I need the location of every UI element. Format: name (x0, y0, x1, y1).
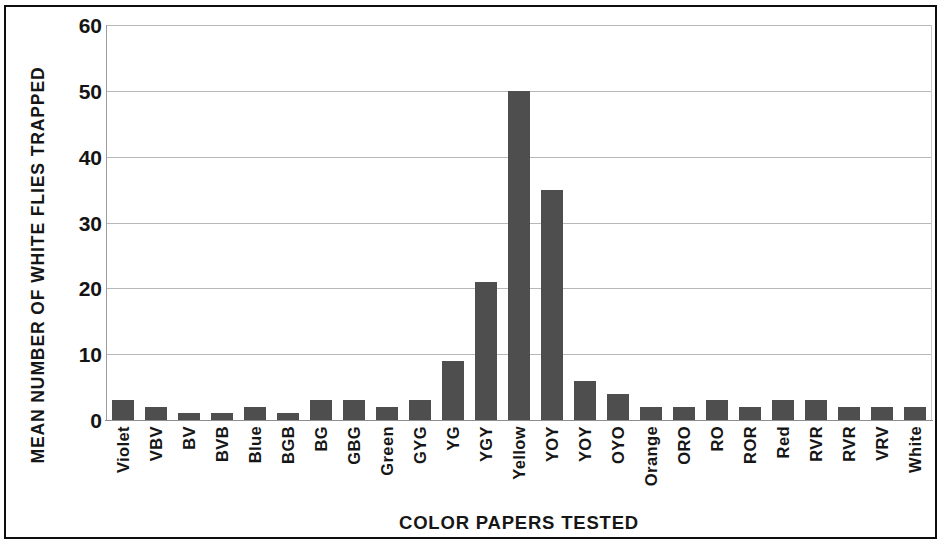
x-axis-tick-label-slot: YG (436, 420, 469, 515)
bar-slot (238, 25, 271, 420)
bar[interactable] (145, 407, 167, 420)
bar-slot (403, 25, 436, 420)
x-axis-tick-label: YOY (577, 426, 594, 462)
x-axis-tick-label-slot: ROR (734, 420, 767, 515)
x-axis-tick-label-slot: OYO (602, 420, 635, 515)
bar[interactable] (541, 190, 563, 420)
bar-slot (767, 25, 800, 420)
bar[interactable] (673, 407, 695, 420)
x-axis-tick-label: RVR (808, 426, 825, 462)
bar[interactable] (706, 400, 728, 420)
x-axis-tick-label-slot: RVR (833, 420, 866, 515)
bar-slot (370, 25, 403, 420)
x-axis-tick-label: RO (709, 426, 726, 452)
y-axis-tick-labels: 0102030405060 (44, 0, 102, 543)
y-axis-tick-label: 50 (44, 80, 102, 101)
x-axis-tick-label: Red (775, 426, 792, 458)
bar[interactable] (805, 400, 827, 420)
x-axis-tick-label: GBG (346, 426, 363, 465)
bar-slot (635, 25, 668, 420)
bar[interactable] (607, 394, 629, 420)
bar[interactable] (475, 282, 497, 420)
bar[interactable] (211, 413, 233, 420)
bar[interactable] (376, 407, 398, 420)
y-axis-tick-label: 10 (44, 344, 102, 365)
bar-slot (139, 25, 172, 420)
x-axis-tick-label: Violet (114, 426, 131, 473)
x-axis-tick-label-slot: VBV (139, 420, 172, 515)
x-axis-title: COLOR PAPERS TESTED (106, 512, 932, 534)
x-axis-tick-label-slot: GBG (337, 420, 370, 515)
x-axis-tick-label: Orange (643, 426, 660, 486)
y-axis-tick-label: 40 (44, 146, 102, 167)
x-axis-tick-label-slot: ORO (668, 420, 701, 515)
x-axis-tick-label-slot: Green (370, 420, 403, 515)
x-axis-tick-label: BGB (279, 426, 296, 464)
bar-slot (469, 25, 502, 420)
y-axis-tick-label: 60 (44, 15, 102, 36)
x-axis-tick-label: YOY (544, 426, 561, 462)
bar-slot (271, 25, 304, 420)
x-axis-tick-label-slot: White (899, 420, 932, 515)
bar-slot (734, 25, 767, 420)
x-axis-tick-label: ROR (742, 426, 759, 464)
bar-slot (502, 25, 535, 420)
x-axis-tick-label: Blue (246, 426, 263, 463)
bar[interactable] (409, 400, 431, 420)
bar[interactable] (112, 400, 134, 420)
bar[interactable] (508, 91, 530, 420)
bar[interactable] (904, 407, 926, 420)
bar[interactable] (442, 361, 464, 420)
bar-slot (866, 25, 899, 420)
x-axis-tick-label-slot: RO (701, 420, 734, 515)
x-axis-tick-label: VRV (874, 426, 891, 461)
bar[interactable] (871, 407, 893, 420)
x-axis-tick-label-slot: BG (304, 420, 337, 515)
x-axis-tick-label-slot: Blue (238, 420, 271, 515)
x-axis-tick-label-slot: BVB (205, 420, 238, 515)
bar[interactable] (310, 400, 332, 420)
x-axis-tick-label: ORO (676, 426, 693, 465)
bar[interactable] (739, 407, 761, 420)
y-axis-tick-label: 30 (44, 212, 102, 233)
bar-slot (668, 25, 701, 420)
bar-slot (833, 25, 866, 420)
bar-slot (536, 25, 569, 420)
bar[interactable] (244, 407, 266, 420)
x-axis-tick-label: GYG (412, 426, 429, 464)
x-axis-tick-label: Green (379, 426, 396, 476)
bar-series (106, 25, 932, 420)
x-axis-tick-label: BG (313, 426, 330, 452)
bar[interactable] (772, 400, 794, 420)
x-axis-tick-label: OYO (610, 426, 627, 464)
y-axis-tick-label: 0 (44, 410, 102, 431)
x-axis-tick-label-slot: Orange (635, 420, 668, 515)
x-axis-tick-labels: VioletVBVBVBVBBlueBGBBGGBGGreenGYGYGYGYY… (106, 420, 932, 515)
bar-slot (436, 25, 469, 420)
bar-chart-figure: MEAN NUMBER OF WHITE FLIES TRAPPED 01020… (0, 0, 941, 543)
bar-slot (337, 25, 370, 420)
bar[interactable] (343, 400, 365, 420)
y-axis-tick-label: 20 (44, 278, 102, 299)
bar[interactable] (640, 407, 662, 420)
bar[interactable] (574, 381, 596, 421)
bar-slot (569, 25, 602, 420)
x-axis-tick-label: BV (180, 426, 197, 450)
x-axis-tick-label: RVR (841, 426, 858, 462)
x-axis-tick-label: BVB (213, 426, 230, 462)
bar-slot (172, 25, 205, 420)
bar[interactable] (277, 413, 299, 420)
bar[interactable] (178, 413, 200, 420)
x-axis-tick-label: White (907, 426, 924, 473)
bar-slot (106, 25, 139, 420)
x-axis-tick-label-slot: YOY (569, 420, 602, 515)
x-axis-tick-label-slot: Red (767, 420, 800, 515)
x-axis-tick-label-slot: VRV (866, 420, 899, 515)
x-axis-tick-label-slot: GYG (403, 420, 436, 515)
bar[interactable] (838, 407, 860, 420)
x-axis-tick-label: YG (445, 426, 462, 451)
bar-slot (205, 25, 238, 420)
x-axis-tick-label-slot: RVR (800, 420, 833, 515)
x-axis-tick-label: Yellow (511, 426, 528, 480)
x-axis-tick-label-slot: BGB (271, 420, 304, 515)
